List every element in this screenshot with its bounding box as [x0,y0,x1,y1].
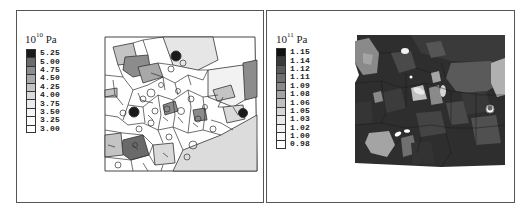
legend-swatch [276,48,286,56]
legend-swatch [276,107,286,115]
legend-swatch [276,82,286,90]
legend-value: 0.98 [290,140,310,148]
legend-swatch [26,57,36,65]
legend-swatch [276,65,286,73]
legend-swatch [26,125,36,133]
legend-swatch [26,108,36,116]
right-unit-label: 1011 Pa [276,33,308,45]
legend-swatch [276,56,286,64]
legend-entry: 3.00 [26,125,60,133]
legend-entry: 0.98 [276,140,310,148]
legend-swatch [26,74,36,82]
legend-swatch [276,115,286,123]
legend-value: 1.08 [290,90,310,98]
legend-swatch [276,73,286,81]
left-grain-stress-map [103,35,259,175]
legend-swatch [276,132,286,140]
right-figure-panel: 1011 Pa 1.151.141.121.111.091.081.061.05… [266,10,515,203]
legend-swatch [276,90,286,98]
legend-swatch [276,98,286,106]
legend-value: 5.25 [40,49,60,57]
legend-value: 4.00 [40,91,60,99]
legend-value: 3.00 [40,125,60,133]
legend-swatch [26,83,36,91]
right-color-legend: 1.151.141.121.111.091.081.061.051.031.02… [276,48,310,149]
legend-swatch [276,124,286,132]
left-unit-label: 1010 Pa [25,33,57,45]
legend-swatch [26,99,36,107]
legend-swatch [26,66,36,74]
legend-swatch [26,49,36,57]
legend-swatch [276,140,286,148]
right-grain-stress-map [351,33,507,173]
left-color-legend: 5.255.004.754.504.254.003.753.503.253.00 [26,49,60,133]
legend-value: 1.15 [290,48,310,56]
legend-swatch [26,116,36,124]
legend-swatch [26,91,36,99]
left-figure-panel: 1010 Pa 5.255.004.754.504.254.003.753.50… [16,10,264,203]
